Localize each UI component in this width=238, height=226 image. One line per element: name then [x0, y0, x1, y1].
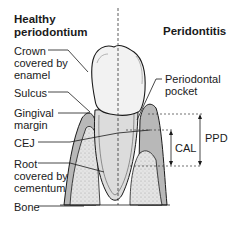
label-bone: Bone [14, 201, 40, 213]
label-root-line3: cementum [14, 182, 68, 194]
label-pocket-line1: Periodontal [165, 73, 221, 85]
label-root-line1: Root [14, 158, 68, 170]
label-root: Root covered by cementum [14, 158, 68, 194]
title-healthy-line2: periodontium [14, 26, 87, 39]
title-healthy-line1: Healthy [14, 13, 87, 26]
label-root-line2: covered by [14, 170, 68, 182]
label-cej: CEJ [14, 137, 35, 149]
label-sulcus: Sulcus [14, 87, 47, 99]
label-crown-line3: enamel [14, 69, 68, 81]
title-periodontitis: Peridontitis [163, 25, 226, 38]
label-cal: CAL [175, 142, 196, 154]
label-pocket-line2: pocket [165, 85, 221, 97]
label-gingival-line1: Gingival [14, 107, 54, 119]
label-gingival-margin: Gingival margin [14, 107, 54, 131]
label-crown-line1: Crown [14, 45, 68, 57]
label-crown: Crown covered by enamel [14, 45, 68, 81]
label-crown-line2: covered by [14, 57, 68, 69]
label-ppd: PPD [205, 132, 228, 144]
title-healthy: Healthy periodontium [14, 13, 87, 39]
label-gingival-line2: margin [14, 119, 54, 131]
leader-sulcus [48, 92, 90, 112]
label-periodontal-pocket: Periodontal pocket [165, 73, 221, 97]
